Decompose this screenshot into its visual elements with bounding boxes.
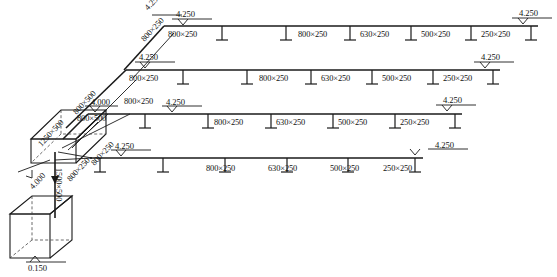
label-b3-elev-left: 4.250 — [166, 98, 185, 107]
label-b3-size-lead: 800×250 — [124, 98, 153, 106]
label-b3-seg-2: 630×250 — [276, 119, 305, 127]
label-b2-seg-4: 500×250 — [382, 75, 411, 83]
label-b4-seg-4: 250×250 — [383, 165, 412, 173]
base-box-side — [50, 196, 72, 258]
branch-4-ticks — [94, 158, 421, 172]
label-base-elev: 0.150 — [28, 264, 47, 273]
label-b1-seg-4: 500×250 — [421, 31, 450, 39]
branch-1-level-marker-right — [518, 18, 528, 24]
branch-3-level-marker-right — [442, 105, 452, 111]
base-box — [10, 196, 72, 262]
branch-2-level-marker-right — [480, 62, 490, 68]
label-b3-seg-1: 800×250 — [214, 119, 243, 127]
label-d-800x500-box: 800×500 — [77, 115, 106, 123]
label-b1-seg-3: 630×250 — [360, 31, 389, 39]
branch-1-level-marker-left — [178, 19, 188, 25]
label-vert-size: 1500×500 — [54, 168, 62, 201]
label-b2-elev-left: 4.250 — [139, 53, 158, 62]
branch-4-level-marker-right — [410, 149, 420, 155]
base-box-front — [10, 214, 50, 258]
label-b3-seg-3: 500×250 — [338, 119, 367, 127]
riser-elevation-line — [18, 160, 50, 172]
label-b4-seg-2: 630×250 — [268, 165, 297, 173]
label-b1-elev-left: 4.250 — [176, 10, 195, 19]
label-b1-elev-right: 4.250 — [519, 9, 538, 18]
base-box-hidden-2 — [10, 240, 32, 258]
label-b2-seg-1: 800×250 — [129, 75, 158, 83]
diagram-canvas — [0, 0, 557, 277]
base-box-hidden — [32, 196, 72, 240]
label-b3-elev-right: 4.250 — [443, 96, 462, 105]
label-b1-seg-5: 250×250 — [481, 31, 510, 39]
label-b4-elev-left: 4.250 — [115, 142, 134, 151]
duct-riser-diagram: 4.250800×2504.2504.250800×250800×250630×… — [0, 0, 557, 277]
label-b4-seg-1: 800×250 — [206, 165, 235, 173]
label-b2-seg-5: 250×250 — [443, 75, 472, 83]
label-b2-elev-right: 4.250 — [481, 53, 500, 62]
label-b2-seg-2: 800×250 — [259, 75, 288, 83]
label-b3-seg-4: 250×250 — [400, 119, 429, 127]
base-elevation-marker — [30, 256, 40, 262]
label-b1-seg-1: 800×250 — [168, 31, 197, 39]
label-b4-elev-right: 4.250 — [435, 141, 454, 150]
riser-elevation-marker — [26, 170, 32, 178]
label-b2-seg-3: 630×250 — [321, 75, 350, 83]
label-b4-seg-3: 500×250 — [330, 165, 359, 173]
label-b1-seg-2: 800×250 — [298, 31, 327, 39]
